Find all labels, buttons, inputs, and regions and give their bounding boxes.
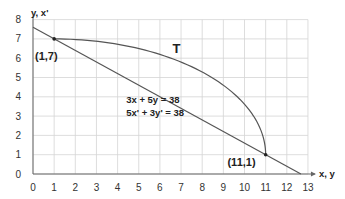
x-axis-arrow — [311, 172, 316, 177]
point-label-11-1: (11,1) — [227, 156, 255, 168]
x-tick-label: 8 — [199, 182, 205, 193]
equation-label-1: 3x + 5y = 38 — [126, 94, 179, 105]
y-tick-label: 4 — [15, 91, 21, 102]
y-tick-label: 6 — [15, 53, 21, 64]
x-tick-label: 13 — [302, 182, 314, 193]
y-tick-label: 1 — [15, 149, 21, 160]
y-tick-label: 7 — [15, 33, 21, 44]
y-tick-label: 8 — [15, 14, 21, 25]
x-tick-label: 10 — [239, 182, 251, 193]
region-label-T: T — [173, 41, 181, 56]
chart: 012345678910111213 012345678 x, y y, x' … — [0, 0, 345, 199]
point-label-1-7: (1,7) — [35, 50, 58, 62]
x-tick-label: 9 — [221, 182, 227, 193]
x-tick-label: 4 — [115, 182, 121, 193]
x-tick-label: 6 — [157, 182, 163, 193]
point-marker — [264, 153, 268, 157]
x-tick-label: 2 — [73, 182, 79, 193]
y-tick-labels: 012345678 — [15, 14, 21, 179]
x-tick-label: 5 — [136, 182, 142, 193]
y-tick-label: 2 — [15, 130, 21, 141]
x-tick-label: 11 — [260, 182, 271, 193]
x-tick-label: 3 — [94, 182, 100, 193]
y-tick-label: 5 — [15, 72, 21, 83]
x-tick-label: 0 — [30, 182, 36, 193]
x-tick-label: 1 — [51, 182, 57, 193]
y-axis-label: y, x' — [31, 7, 48, 18]
y-tick-label: 3 — [15, 111, 21, 122]
y-tick-label: 0 — [15, 169, 21, 180]
point-marker — [52, 37, 56, 41]
x-tick-label: 7 — [178, 182, 184, 193]
x-tick-label: 12 — [281, 182, 293, 193]
equation-label-2: 5x' + 3y' = 38 — [126, 107, 184, 118]
x-tick-labels: 012345678910111213 — [30, 182, 314, 193]
x-axis-label: x, y — [319, 168, 336, 179]
